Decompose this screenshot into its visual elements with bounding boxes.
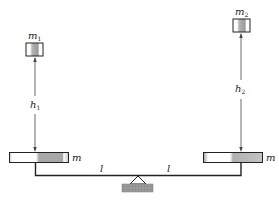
lever-diagram: m1 m2 h1 h2 m m l l: [0, 0, 279, 200]
left-arm-label: l: [100, 163, 103, 174]
right-plate-label: m: [266, 152, 275, 163]
left-height-label: h1: [30, 99, 40, 111]
right-plate: [204, 153, 263, 163]
right-height-label: h2: [235, 83, 245, 95]
left-plate-label: m: [72, 152, 81, 163]
lever-beam: [36, 163, 242, 176]
right-arm-label: l: [167, 163, 170, 174]
left-plate: [10, 153, 69, 163]
left-block-m1: [26, 43, 43, 56]
fulcrum-icon: [122, 176, 153, 192]
right-block-m2: [233, 19, 250, 32]
left-block-label: m1: [28, 30, 41, 42]
right-block-label: m2: [235, 6, 248, 18]
